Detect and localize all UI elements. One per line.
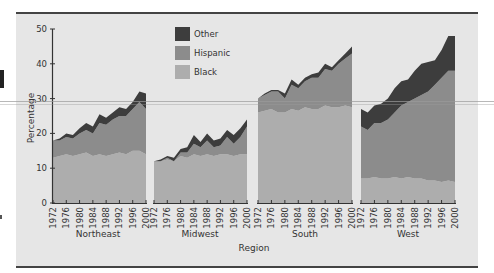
x-tick-label: 1988 [410, 207, 420, 229]
scan-artifact-line [0, 101, 494, 102]
x-tick-label: 1972 [48, 207, 58, 229]
x-tick-label: 1992 [423, 207, 433, 229]
x-tick-label: 1976 [61, 207, 71, 229]
x-tick-label: 1980 [75, 207, 85, 229]
x-tick-label: 1980 [383, 207, 393, 229]
y-tick-label: 50 [36, 24, 47, 34]
y-tick-label: 0 [42, 198, 47, 208]
x-tick-label: 1988 [307, 207, 317, 229]
x-tick-label: 1984 [189, 207, 199, 229]
x-tick-label: 1976 [369, 207, 379, 229]
x-tick-label: 1972 [356, 207, 366, 229]
legend-swatch-other [175, 27, 190, 41]
x-tick-label: 1972 [149, 207, 159, 229]
y-tick-label: 30 [36, 94, 47, 104]
y-tick-label: 10 [36, 163, 47, 173]
area-northeast-hispanic [53, 102, 146, 158]
x-tick-label: 1996 [437, 207, 447, 229]
x-tick-label: 1996 [334, 207, 344, 229]
area-south-black [258, 106, 352, 203]
x-tick-label: 1988 [101, 207, 111, 229]
x-tick-label: 1992 [114, 207, 124, 229]
chart-areas [53, 36, 455, 203]
legend: Other Hispanic Black [175, 27, 231, 79]
legend-label-hispanic: Hispanic [194, 48, 231, 58]
x-tick-label: 2000 [450, 207, 460, 229]
x-tick-label: 1996 [229, 207, 239, 229]
legend-label-black: Black [194, 67, 217, 77]
area-northeast-black [53, 151, 146, 203]
y-tick-label: 40 [36, 59, 47, 69]
legend-swatch-black [175, 65, 190, 79]
x-tick-label: 1976 [266, 207, 276, 229]
region-label-south: South [292, 229, 318, 239]
x-tick-label: 1984 [293, 207, 303, 229]
x-tick-label: 1992 [320, 207, 330, 229]
x-tick-label: 2000 [242, 207, 252, 229]
y-tick-label: 20 [36, 128, 47, 138]
scan-artifact-line [0, 104, 494, 105]
legend-swatch-hispanic [175, 46, 190, 60]
y-axis-title: Percentage [26, 92, 36, 143]
x-tick-label: 1996 [128, 207, 138, 229]
x-axis-title: Region [239, 243, 270, 253]
x-tick-label: 1972 [253, 207, 263, 229]
legend-label-other: Other [194, 29, 219, 39]
x-tick-label: 1980 [176, 207, 186, 229]
x-tick-label: 1988 [202, 207, 212, 229]
x-tick-label: 1984 [396, 207, 406, 229]
area-midwest-black [154, 154, 247, 203]
x-tick-label: 1984 [88, 207, 98, 229]
region-label-west: West [397, 229, 420, 239]
x-tick-label: 1992 [215, 207, 225, 229]
region-label-midwest: Midwest [181, 229, 219, 239]
stacked-area-chart: 1972197619801984198819921996200019721976… [0, 0, 494, 273]
region-label-northeast: Northeast [76, 229, 121, 239]
x-tick-label: 1976 [162, 207, 172, 229]
x-tick-label: 1980 [280, 207, 290, 229]
